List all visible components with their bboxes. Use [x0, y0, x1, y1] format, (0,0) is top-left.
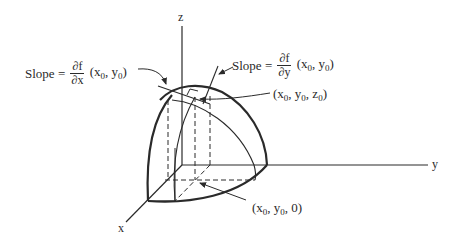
surface-diagram — [0, 0, 462, 242]
slope-y-word: Slope — [232, 58, 262, 73]
slope-y-leader-arrow — [219, 67, 233, 74]
slope-y-numerator: ∂f — [277, 52, 291, 66]
slope-x-numerator: ∂f — [70, 60, 84, 74]
surface-outer-bottom-arc — [148, 165, 267, 202]
slope-y-equals: = — [265, 58, 272, 73]
slope-y-fraction: ∂f ∂y — [277, 52, 291, 78]
slope-x-label: Slope = ∂f ∂x (x0, y0) — [25, 60, 127, 86]
slope-y-denominator: ∂y — [277, 66, 291, 79]
slope-x-leader-arrow — [138, 69, 166, 84]
x-axis — [126, 165, 182, 222]
slope-x-word: Slope — [25, 66, 55, 81]
z-axis-label: z — [178, 11, 183, 23]
slope-y-args: (x0, y0) — [297, 56, 334, 71]
slope-x-fraction: ∂f ∂x — [70, 60, 84, 86]
y-axis-label: y — [432, 158, 438, 170]
slope-x-equals: = — [58, 66, 65, 81]
point-surface-label: (x0, y0, z0) — [273, 87, 327, 103]
slope-x-args: (x0, y0) — [90, 64, 127, 79]
slope-y-label: Slope = ∂f ∂y (x0, y0) — [232, 52, 334, 78]
x-axis-label: x — [118, 222, 124, 234]
slope-x-denominator: ∂x — [70, 74, 84, 87]
point-base-label: (x0, y0, 0) — [252, 201, 302, 217]
x-section-curve — [174, 97, 195, 201]
dashed-base-diagonal — [175, 165, 210, 201]
right-angle-mark — [187, 89, 198, 95]
y-section-curve — [172, 100, 256, 180]
